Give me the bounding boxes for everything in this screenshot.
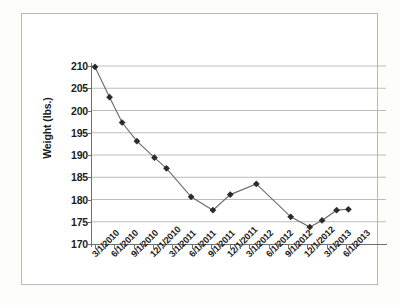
x-tick-mark bbox=[278, 245, 279, 249]
y-tick-mark bbox=[87, 177, 91, 178]
y-tick-mark bbox=[87, 111, 91, 112]
y-tick-label: 185 bbox=[48, 172, 88, 182]
weight-series bbox=[92, 66, 386, 244]
x-tick-mark bbox=[134, 245, 135, 249]
x-tick-mark bbox=[240, 245, 241, 249]
y-tick-mark bbox=[87, 155, 91, 156]
y-tick-mark bbox=[87, 88, 91, 89]
x-tick-mark bbox=[211, 245, 212, 249]
x-tick-mark bbox=[105, 245, 106, 249]
plot-area bbox=[92, 66, 386, 244]
x-tick-mark bbox=[163, 245, 164, 249]
x-tick-mark bbox=[356, 245, 357, 249]
x-tick-mark bbox=[95, 245, 96, 249]
x-tick-mark bbox=[249, 245, 250, 249]
x-tick-mark bbox=[143, 245, 144, 249]
y-tick-label: 205 bbox=[48, 83, 88, 93]
y-tick-label: 195 bbox=[48, 128, 88, 138]
y-tick-mark bbox=[87, 200, 91, 201]
chart-frame: Weight (lbs.) 21020520019519018518017517… bbox=[21, 13, 378, 285]
y-tick-label: 200 bbox=[48, 106, 88, 116]
series-line bbox=[95, 67, 348, 227]
y-tick-mark bbox=[87, 244, 91, 245]
x-tick-mark bbox=[172, 245, 173, 249]
x-tick-mark bbox=[220, 245, 221, 249]
x-tick-mark bbox=[201, 245, 202, 249]
y-tick-label: 170 bbox=[48, 239, 88, 249]
x-tick-mark bbox=[192, 245, 193, 249]
y-tick-label: 180 bbox=[48, 195, 88, 205]
y-tick-label: 175 bbox=[48, 217, 88, 227]
y-axis-tick-labels: 210205200195190185180175170 bbox=[44, 14, 88, 286]
y-tick-mark bbox=[87, 222, 91, 223]
data-point-marker bbox=[345, 206, 351, 212]
x-tick-mark bbox=[336, 245, 337, 249]
x-tick-mark bbox=[317, 245, 318, 249]
x-tick-mark bbox=[124, 245, 125, 249]
x-tick-mark bbox=[298, 245, 299, 249]
y-tick-mark bbox=[87, 133, 91, 134]
y-tick-mark bbox=[87, 66, 91, 67]
data-point-marker bbox=[106, 94, 112, 100]
x-tick-mark bbox=[346, 245, 347, 249]
x-tick-mark bbox=[327, 245, 328, 249]
x-tick-mark bbox=[153, 245, 154, 249]
x-tick-mark bbox=[182, 245, 183, 249]
data-point-marker bbox=[92, 64, 98, 70]
x-tick-mark bbox=[307, 245, 308, 249]
x-tick-mark bbox=[114, 245, 115, 249]
scanned-page: Weight (lbs.) 21020520019519018518017517… bbox=[0, 0, 400, 305]
x-tick-mark bbox=[230, 245, 231, 249]
y-tick-label: 190 bbox=[48, 150, 88, 160]
x-tick-mark bbox=[259, 245, 260, 249]
x-tick-mark bbox=[269, 245, 270, 249]
data-point-marker bbox=[307, 224, 313, 230]
y-tick-label: 210 bbox=[48, 61, 88, 71]
x-tick-mark bbox=[288, 245, 289, 249]
